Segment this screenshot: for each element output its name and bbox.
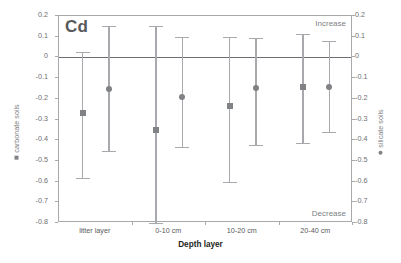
y-tick-mark-right bbox=[352, 15, 355, 16]
error-bar-cap-upper bbox=[223, 37, 237, 38]
y-tick-label-right: -0.6 bbox=[355, 177, 367, 184]
y-tick-label-left: 0 bbox=[44, 52, 48, 59]
x-tick-label: 10-20 cm bbox=[227, 226, 257, 235]
y-tick-mark-right bbox=[352, 77, 355, 78]
error-bar-cap-lower bbox=[249, 145, 263, 146]
y-tick-label-left: -0.5 bbox=[36, 156, 48, 163]
x-tick-mark bbox=[279, 222, 280, 225]
x-tick-label: litter layer bbox=[79, 226, 110, 235]
y-tick-mark-right bbox=[352, 36, 355, 37]
plot-area: Cd Increase Decrease bbox=[58, 15, 352, 222]
y-tick-label-right: -0.8 bbox=[355, 218, 367, 225]
error-bar-cap-lower bbox=[175, 147, 189, 148]
y-tick-mark-right bbox=[352, 160, 355, 161]
data-point-marker-circle bbox=[179, 94, 185, 100]
y-tick-label-right: -0.1 bbox=[355, 73, 367, 80]
error-bar-cap-lower bbox=[149, 223, 163, 224]
y-tick-mark-right bbox=[352, 98, 355, 99]
data-point-marker-circle bbox=[106, 86, 112, 92]
y-tick-label-left: -0.6 bbox=[36, 177, 48, 184]
y-tick-mark-right bbox=[352, 201, 355, 202]
y-tick-label-left: 0.1 bbox=[38, 32, 48, 39]
y-tick-mark-left bbox=[55, 222, 58, 223]
error-bar-cap-upper bbox=[322, 41, 336, 42]
square-marker-icon bbox=[14, 155, 18, 159]
x-tick-mark bbox=[352, 222, 353, 225]
y-axis-left-legend: carbonate soils bbox=[12, 104, 21, 159]
data-point-marker-square bbox=[80, 110, 86, 116]
x-tick-mark bbox=[205, 222, 206, 225]
y-axis-right-label: silicate soils bbox=[376, 109, 385, 147]
x-tick-mark bbox=[132, 222, 133, 225]
y-tick-label-right: -0.2 bbox=[355, 94, 367, 101]
error-bar-cap-upper bbox=[296, 34, 310, 35]
error-bar bbox=[155, 26, 156, 223]
error-bar-cap-upper bbox=[76, 52, 90, 53]
x-axis-title: Depth layer bbox=[0, 240, 401, 249]
error-bar-cap-lower bbox=[223, 182, 237, 183]
annotation-decrease: Decrease bbox=[312, 209, 346, 218]
y-tick-label-right: 0.2 bbox=[355, 11, 365, 18]
y-tick-label-right: -0.5 bbox=[355, 156, 367, 163]
y-tick-label-right: 0.1 bbox=[355, 32, 365, 39]
error-bar-cap-lower bbox=[322, 132, 336, 133]
y-tick-label-left: -0.3 bbox=[36, 115, 48, 122]
chart-title: Cd bbox=[65, 17, 88, 37]
error-bar-cap-upper bbox=[175, 37, 189, 38]
y-tick-label-right: -0.3 bbox=[355, 115, 367, 122]
y-tick-label-right: -0.4 bbox=[355, 135, 367, 142]
y-axis-right-legend: silicate soils bbox=[376, 109, 385, 154]
zero-reference-line bbox=[59, 57, 351, 58]
error-bar bbox=[182, 37, 183, 148]
circle-marker-icon bbox=[378, 150, 382, 154]
error-bar-cap-upper bbox=[149, 26, 163, 27]
x-tick-label: 0-10 cm bbox=[155, 226, 181, 235]
y-tick-label-left: -0.4 bbox=[36, 135, 48, 142]
y-tick-mark-right bbox=[352, 56, 355, 57]
error-bar-cap-upper bbox=[249, 38, 263, 39]
error-bar-cap-lower bbox=[76, 178, 90, 179]
y-tick-mark-right bbox=[352, 181, 355, 182]
y-tick-label-left: -0.7 bbox=[36, 197, 48, 204]
x-tick-label: 20-40 cm bbox=[300, 226, 330, 235]
data-point-marker-square bbox=[300, 84, 306, 90]
y-tick-mark-right bbox=[352, 139, 355, 140]
y-tick-label-right: -0.7 bbox=[355, 197, 367, 204]
y-tick-label-left: 0.2 bbox=[38, 11, 48, 18]
chart-figure: 0.20.10-0.1-0.2-0.3-0.4-0.5-0.6-0.7-0.8 … bbox=[0, 0, 401, 263]
data-point-marker-circle bbox=[253, 85, 259, 91]
data-point-marker-circle bbox=[326, 84, 332, 90]
plot-inner bbox=[59, 16, 351, 221]
y-tick-label-left: -0.8 bbox=[36, 218, 48, 225]
y-axis-left-label: carbonate soils bbox=[12, 104, 21, 152]
y-tick-mark-right bbox=[352, 119, 355, 120]
error-bar-cap-lower bbox=[102, 151, 116, 152]
error-bar-cap-lower bbox=[296, 143, 310, 144]
y-tick-label-left: -0.1 bbox=[36, 73, 48, 80]
y-tick-label-right: 0 bbox=[355, 52, 359, 59]
error-bar bbox=[255, 38, 256, 146]
error-bar bbox=[229, 37, 230, 182]
error-bar-cap-upper bbox=[102, 26, 116, 27]
y-tick-label-left: -0.2 bbox=[36, 94, 48, 101]
annotation-increase: Increase bbox=[315, 19, 346, 28]
data-point-marker-square bbox=[153, 127, 159, 133]
data-point-marker-square bbox=[227, 103, 233, 109]
